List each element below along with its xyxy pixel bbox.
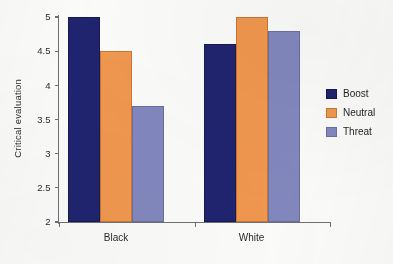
bar-white-boost xyxy=(204,44,236,222)
legend-item-boost[interactable]: Boost xyxy=(326,86,375,102)
y-axis-tick-label: 3.5 xyxy=(37,115,54,125)
legend-label-threat: Threat xyxy=(343,127,372,137)
x-axis-tick-mark xyxy=(195,222,196,227)
bar-black-threat xyxy=(132,106,164,222)
bar-black-boost xyxy=(68,17,100,222)
bar-black-neutral xyxy=(100,51,132,222)
legend-swatch-neutral xyxy=(326,108,337,118)
x-axis-tick-mark xyxy=(330,222,331,227)
y-axis-title-label: Critical evaluation xyxy=(12,79,23,158)
x-axis-category-label-black: Black xyxy=(104,232,128,243)
y-axis-tick-label: 3 xyxy=(45,149,54,159)
legend-label-boost: Boost xyxy=(343,89,369,99)
x-axis-category-label-white: White xyxy=(239,232,265,243)
y-axis-tick-label: 5 xyxy=(45,12,54,22)
y-axis-tick-label: 4 xyxy=(45,81,54,91)
plot-area xyxy=(59,17,330,222)
grouped-bar-chart: Critical evaluation 22.533.544.55 BlackW… xyxy=(0,0,393,264)
y-axis-tick-label: 2 xyxy=(45,217,54,227)
y-axis-tick-label: 2.5 xyxy=(37,183,54,193)
y-axis-title: Critical evaluation xyxy=(6,0,28,236)
bar-white-threat xyxy=(268,31,300,222)
x-axis-tick-mark xyxy=(59,222,60,227)
legend-swatch-boost xyxy=(326,89,337,99)
bar-white-neutral xyxy=(236,17,268,222)
legend-item-threat[interactable]: Threat xyxy=(326,124,375,140)
legend-label-neutral: Neutral xyxy=(343,108,375,118)
legend-item-neutral[interactable]: Neutral xyxy=(326,105,375,121)
y-axis-tick-label: 4.5 xyxy=(37,46,54,56)
legend-swatch-threat xyxy=(326,127,337,137)
chart-legend: BoostNeutralThreat xyxy=(326,86,375,143)
